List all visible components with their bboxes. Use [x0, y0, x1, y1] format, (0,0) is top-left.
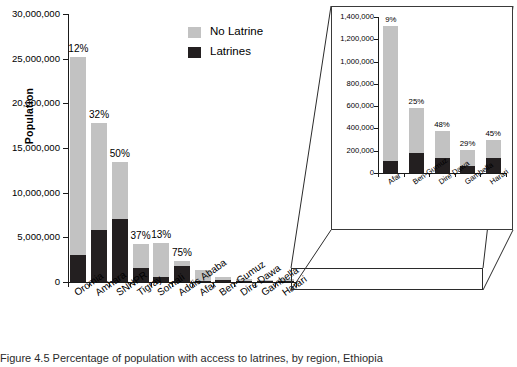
inset-y-tick	[374, 151, 379, 152]
no-latrine-swatch	[188, 27, 201, 38]
main-y-tick-label: 25,000,000	[0, 53, 60, 64]
inset-bar-segment-no-latrine	[486, 140, 501, 158]
bar-segment-latrines	[70, 255, 86, 282]
main-x-tick	[172, 282, 173, 287]
inset-y-tick-label: 400,000	[330, 123, 374, 132]
bar-segment-no-latrine	[70, 57, 86, 255]
latrines-swatch	[188, 47, 201, 58]
inset-x-tick	[429, 173, 430, 177]
inset-y-tick-label: 1,000,000	[330, 57, 374, 66]
inset-x-tick	[378, 173, 379, 177]
inset-bar	[383, 26, 398, 173]
inset-y-tick	[374, 106, 379, 107]
inset-x-tick	[506, 173, 507, 177]
main-y-tick-label: 30,000,000	[0, 8, 60, 19]
inset-bar-percent-label: 25%	[400, 97, 432, 106]
bar-percent-label: 50%	[100, 148, 140, 159]
main-y-tick	[63, 14, 69, 15]
bar-segment-no-latrine	[91, 123, 107, 230]
main-x-tick	[192, 282, 193, 287]
legend-label-no-latrine: No Latrine	[210, 25, 263, 37]
inset-y-tick-label: 0	[330, 168, 374, 177]
main-bar	[112, 162, 128, 282]
main-y-tick-label: 0	[0, 276, 60, 287]
main-bar	[70, 57, 86, 282]
main-bar	[91, 123, 107, 282]
inset-y-tick	[374, 128, 379, 129]
main-x-tick	[68, 282, 69, 287]
inset-bar-percent-label: 48%	[426, 120, 458, 129]
main-y-tick-label: 10,000,000	[0, 187, 60, 198]
inset-chart-panel: 0200,000400,000600,000800,0001,000,0001,…	[331, 6, 513, 230]
inset-bar-percent-label: 29%	[452, 139, 484, 148]
inset-x-tick	[480, 173, 481, 177]
bar-percent-label: 13%	[141, 229, 181, 240]
bar-percent-label: 32%	[79, 109, 119, 120]
inset-y-tick-label: 1,200,000	[330, 34, 374, 43]
inset-y-tick-label: 800,000	[330, 79, 374, 88]
figure-root: Population 05,000,00010,000,00015,000,00…	[0, 0, 517, 367]
main-y-tick	[63, 59, 69, 60]
inset-bar-percent-label: 45%	[477, 129, 509, 138]
inset-x-tick	[455, 173, 456, 177]
main-x-tick	[130, 282, 131, 287]
bar-segment-no-latrine	[112, 162, 128, 218]
bar-segment-no-latrine	[133, 244, 149, 268]
main-y-tick-label: 20,000,000	[0, 97, 60, 108]
inset-y-tick	[374, 62, 379, 63]
main-chart-panel: Population 05,000,00010,000,00015,000,00…	[0, 0, 300, 340]
inset-bar-segment-no-latrine	[383, 26, 398, 161]
main-y-tick	[63, 237, 69, 238]
inset-bar-segment-no-latrine	[435, 131, 450, 158]
main-y-tick	[63, 148, 69, 149]
inset-bar-percent-label: 9%	[375, 15, 407, 24]
main-y-tick	[63, 193, 69, 194]
main-x-tick	[109, 282, 110, 287]
legend-label-latrines: Latrines	[210, 45, 251, 57]
main-x-tick	[255, 282, 256, 287]
main-x-tick	[213, 282, 214, 287]
main-x-tick	[151, 282, 152, 287]
bar-percent-label: 75%	[162, 247, 202, 258]
inset-bar-segment-no-latrine	[409, 108, 424, 153]
main-y-tick	[63, 103, 69, 104]
bar-percent-label: 12%	[58, 43, 98, 54]
figure-caption: Figure 4.5 Percentage of population with…	[0, 352, 517, 367]
inset-y-tick	[374, 84, 379, 85]
inset-y-tick	[374, 39, 379, 40]
main-x-tick	[89, 282, 90, 287]
inset-y-tick-label: 200,000	[330, 146, 374, 155]
main-x-tick	[275, 282, 276, 287]
inset-x-tick	[404, 173, 405, 177]
inset-bar	[409, 108, 424, 173]
callout-highlight-box	[291, 268, 483, 290]
main-y-tick-label: 5,000,000	[0, 231, 60, 242]
inset-y-tick-label: 600,000	[330, 101, 374, 110]
main-y-tick-label: 15,000,000	[0, 142, 60, 153]
inset-y-tick-label: 1,400,000	[330, 12, 374, 21]
main-x-tick	[234, 282, 235, 287]
